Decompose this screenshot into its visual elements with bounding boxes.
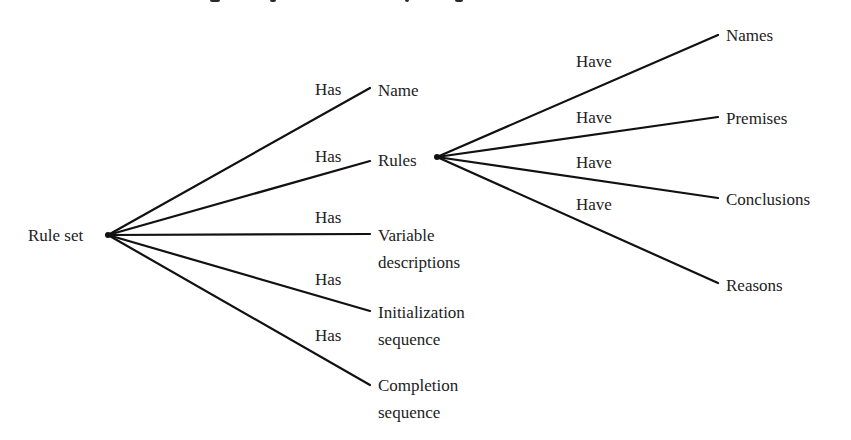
- rules-hub-dot: [434, 154, 440, 160]
- node-variable-descriptions-line2: descriptions: [378, 249, 460, 276]
- node-initialization-sequence-line2: sequence: [378, 326, 440, 353]
- node-variable-descriptions-line1: Variable: [378, 222, 435, 249]
- node-names: Names: [726, 22, 773, 49]
- node-completion-sequence-line1: Completion: [378, 372, 458, 399]
- edge-label-has-rules: Has: [315, 147, 341, 167]
- node-completion-sequence-line2: sequence: [378, 399, 440, 426]
- edge-label-has-name: Has: [315, 80, 341, 100]
- edge-label-have-conclusions: Have: [576, 153, 612, 173]
- edge-rules-reasons: [437, 157, 718, 283]
- edge-label-has-initialization-sequence: Has: [315, 270, 341, 290]
- node-premises: Premises: [726, 105, 787, 132]
- node-reasons: Reasons: [726, 272, 783, 299]
- node-name: Name: [378, 77, 419, 104]
- node-rule-set: Rule set: [28, 222, 83, 249]
- edge-label-has-variable-descriptions: Has: [315, 208, 341, 228]
- node-rules: Rules: [378, 147, 417, 174]
- node-initialization-sequence-line1: Initialization: [378, 299, 465, 326]
- edge-label-have-premises: Have: [576, 108, 612, 128]
- node-conclusions: Conclusions: [726, 186, 810, 213]
- edge-label-has-completion-sequence: Has: [315, 326, 341, 346]
- edge-label-have-names: Have: [576, 52, 612, 72]
- root-hub-dot: [105, 232, 111, 238]
- edge-ruleset-completion-sequence: [108, 235, 370, 385]
- edge-label-have-reasons: Have: [576, 195, 612, 215]
- edge-ruleset-variable-descriptions: [108, 234, 370, 235]
